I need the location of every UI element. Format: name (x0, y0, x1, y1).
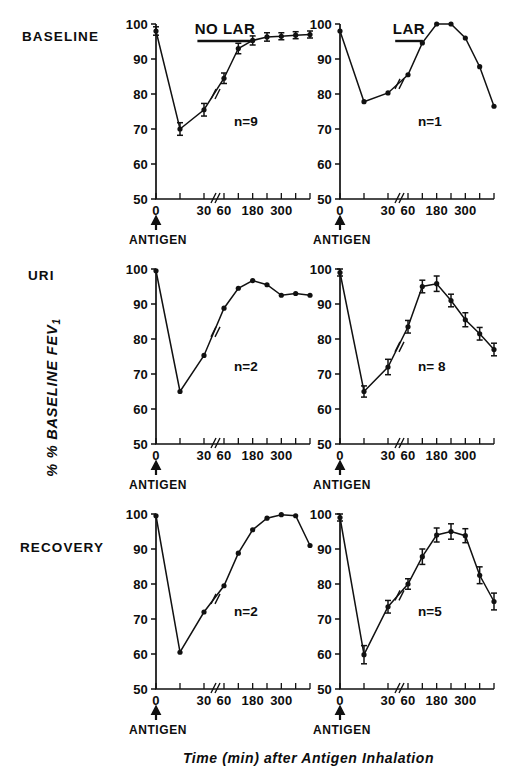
panel-uri-lar: 506070809010003060180300n= 8ANTIGEN (300, 253, 527, 498)
y-axis-title: % % BASELINE FEV1 (44, 302, 63, 492)
data-point (264, 282, 269, 287)
plot-recovery-lar: 506070809010003060180300n=5ANTIGEN (300, 498, 527, 743)
data-point (463, 317, 468, 322)
antigen-arrow-head (336, 462, 343, 469)
panel-baseline-lar: 506070809010003060180300LARn=1ANTIGEN (300, 8, 527, 253)
y-tick-label-90: 90 (133, 52, 148, 67)
y-tick-label-70: 70 (317, 122, 332, 137)
y-tick-label-70: 70 (133, 612, 148, 627)
sample-size-label: n=1 (418, 114, 442, 129)
x-tick-label-300: 300 (454, 693, 476, 708)
data-point (420, 554, 425, 559)
data-line (156, 271, 310, 392)
axis-lines (340, 269, 494, 444)
data-point (491, 104, 496, 109)
data-point (448, 529, 453, 534)
data-line (156, 515, 310, 653)
y-tick-label-70: 70 (133, 122, 148, 137)
data-point (448, 298, 453, 303)
x-tick-label-300: 300 (270, 203, 292, 218)
data-point (361, 652, 366, 657)
axis-lines (340, 514, 494, 689)
y-tick-label-50: 50 (317, 437, 332, 452)
y-tick-label-70: 70 (317, 612, 332, 627)
x-tick-label-30: 30 (381, 203, 396, 218)
data-point (337, 515, 342, 520)
y-tick-label-50: 50 (317, 192, 332, 207)
data-point (405, 324, 410, 329)
data-point (201, 107, 206, 112)
data-point (279, 293, 284, 298)
plot-baseline-lar: 506070809010003060180300LARn=1ANTIGEN (300, 8, 527, 253)
x-tick-label-180: 180 (426, 448, 448, 463)
y-tick-label-90: 90 (317, 297, 332, 312)
row-label-recovery: RECOVERY (20, 540, 104, 555)
y-tick-label-90: 90 (317, 542, 332, 557)
x-tick-label-300: 300 (270, 693, 292, 708)
data-point (477, 64, 482, 69)
x-tick-label-180: 180 (242, 448, 264, 463)
y-tick-label-50: 50 (133, 437, 148, 452)
data-point (293, 513, 298, 518)
data-point (221, 583, 226, 588)
data-point (293, 291, 298, 296)
x-tick-label-300: 300 (454, 448, 476, 463)
y-tick-label-70: 70 (133, 367, 148, 382)
y-tick-label-60: 60 (133, 157, 148, 172)
x-tick-label-60: 60 (401, 693, 416, 708)
antigen-label: ANTIGEN (129, 723, 187, 737)
y-tick-label-100: 100 (126, 507, 148, 522)
data-point (420, 40, 425, 45)
data-point (491, 599, 496, 604)
y-tick-label-60: 60 (317, 402, 332, 417)
data-point (279, 34, 284, 39)
x-tick-label-180: 180 (242, 693, 264, 708)
x-tick-label-60: 60 (401, 448, 416, 463)
data-point (236, 286, 241, 291)
panel-recovery-lar: 506070809010003060180300n=5ANTIGEN (300, 498, 527, 743)
y-tick-label-60: 60 (133, 647, 148, 662)
y-tick-label-90: 90 (317, 52, 332, 67)
y-tick-label-50: 50 (133, 682, 148, 697)
data-point (279, 512, 284, 517)
antigen-arrow-head (336, 707, 343, 714)
y-tick-label-50: 50 (317, 682, 332, 697)
x-tick-label-30: 30 (197, 448, 212, 463)
y-tick-label-50: 50 (133, 192, 148, 207)
data-point (337, 270, 342, 275)
data-line (340, 518, 494, 655)
y-axis-title-subscript: 1 (51, 318, 62, 324)
x-tick-label-300: 300 (454, 203, 476, 218)
data-line (156, 31, 310, 129)
data-point (264, 34, 269, 39)
data-point (337, 28, 342, 33)
figure-root: BASELINE URI RECOVERY % % BASELINE FEV1 … (0, 0, 527, 778)
data-point (221, 76, 226, 81)
antigen-arrow-head (152, 217, 159, 224)
data-point (293, 33, 298, 38)
data-point (420, 284, 425, 289)
y-tick-label-100: 100 (310, 17, 332, 32)
antigen-label: ANTIGEN (129, 478, 187, 492)
x-tick-label-180: 180 (426, 203, 448, 218)
data-point (477, 573, 482, 578)
antigen-label: ANTIGEN (129, 233, 187, 247)
y-tick-label-80: 80 (133, 87, 148, 102)
sample-size-label: n= 8 (418, 359, 446, 374)
data-point (361, 99, 366, 104)
antigen-label: ANTIGEN (313, 723, 371, 737)
data-point (153, 268, 158, 273)
row-label-uri: URI (28, 268, 55, 283)
x-tick-label-60: 60 (217, 448, 232, 463)
data-point (405, 581, 410, 586)
data-point (477, 331, 482, 336)
data-point (236, 46, 241, 51)
x-tick-label-180: 180 (242, 203, 264, 218)
data-point (434, 532, 439, 537)
y-tick-label-100: 100 (310, 262, 332, 277)
x-tick-label-60: 60 (217, 693, 232, 708)
y-tick-label-90: 90 (133, 542, 148, 557)
data-point (177, 389, 182, 394)
sample-size-label: n=5 (418, 604, 442, 619)
y-tick-label-90: 90 (133, 297, 148, 312)
